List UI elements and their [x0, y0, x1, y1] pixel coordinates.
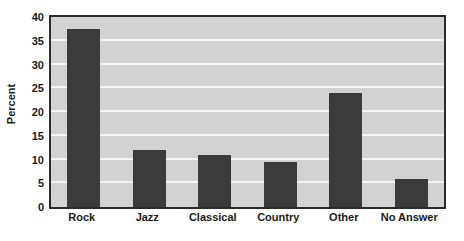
x-axis-tick-label: No Answer [377, 211, 443, 224]
x-axis-tick-label: Rock [49, 211, 115, 224]
bar [133, 150, 166, 207]
y-axis-tick-label: 15 [32, 130, 44, 141]
bar [329, 93, 362, 207]
x-axis-tick-labels: RockJazzClassicalCountryOtherNo Answer [49, 211, 446, 231]
y-axis-tick-label: 0 [38, 202, 44, 213]
y-axis-tick-label: 40 [32, 12, 44, 23]
bars-layer [51, 17, 444, 207]
bar-chart: Percent 0510152025303540 RockJazzClassic… [0, 0, 464, 241]
y-axis-tick-label: 10 [32, 154, 44, 165]
bar [198, 155, 231, 207]
y-axis-tick-label: 30 [32, 59, 44, 70]
bar [264, 162, 297, 207]
y-axis-tick-label: 20 [32, 107, 44, 118]
y-axis-tick-label: 5 [38, 178, 44, 189]
plot-area [51, 17, 444, 207]
x-axis-tick-label: Classical [180, 211, 246, 224]
y-axis-tick-label: 35 [32, 35, 44, 46]
bar [67, 29, 100, 207]
y-axis-tick-labels: 0510152025303540 [22, 17, 48, 207]
y-axis-title: Percent [0, 0, 22, 207]
x-axis-tick-label: Jazz [115, 211, 181, 224]
x-axis-tick-label: Other [311, 211, 377, 224]
y-axis-tick-label: 25 [32, 83, 44, 94]
y-axis-title-label: Percent [5, 83, 17, 123]
x-axis-tick-label: Country [246, 211, 312, 224]
bar [395, 179, 428, 208]
plot-frame [49, 15, 446, 209]
